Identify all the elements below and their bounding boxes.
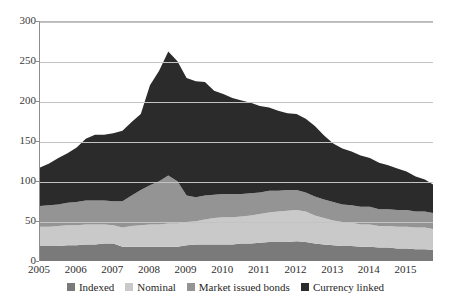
gridline-150 <box>40 142 433 143</box>
legend-label: Market issued bonds <box>199 281 290 293</box>
y-tick-mark-0 <box>35 261 39 262</box>
x-tick-label-2010: 2010 <box>211 263 233 275</box>
x-tick-label-2007: 2007 <box>101 263 123 275</box>
gridline-300 <box>40 22 433 23</box>
plot-area <box>39 21 433 261</box>
legend-item-nominal[interactable]: Nominal <box>125 281 176 293</box>
x-tick-label-2014: 2014 <box>358 263 380 275</box>
x-tick-label-2008: 2008 <box>138 263 160 275</box>
x-tick-label-2005: 2005 <box>28 263 50 275</box>
y-tick-label-250: 250 <box>2 55 36 66</box>
x-tick-label-2013: 2013 <box>321 263 343 275</box>
gridline-250 <box>40 62 433 63</box>
x-tick-label-2006: 2006 <box>65 263 87 275</box>
y-tick-label-200: 200 <box>2 95 36 106</box>
legend-swatch-icon <box>301 283 309 291</box>
x-tick-label-2012: 2012 <box>285 263 307 275</box>
legend-item-market-issued-bonds[interactable]: Market issued bonds <box>187 281 290 293</box>
legend-label: Indexed <box>79 281 114 293</box>
y-tick-label-50: 50 <box>2 215 36 226</box>
legend-label: Currency linked <box>313 281 384 293</box>
gridline-50 <box>40 222 433 223</box>
x-axis: 2005200620072008200920102011201220132014… <box>39 263 433 279</box>
y-tick-label-300: 300 <box>2 15 36 26</box>
y-tick-label-150: 150 <box>2 135 36 146</box>
legend-swatch-icon <box>67 283 75 291</box>
stacked-area-chart: 050100150200250300 200520062007200820092… <box>0 0 451 302</box>
legend-swatch-icon <box>125 283 133 291</box>
chart-legend: IndexedNominalMarket issued bondsCurrenc… <box>0 281 451 293</box>
x-tick-label-2011: 2011 <box>248 263 270 275</box>
legend-item-currency-linked[interactable]: Currency linked <box>301 281 384 293</box>
legend-label: Nominal <box>137 281 176 293</box>
gridline-200 <box>40 102 433 103</box>
y-axis: 050100150200250300 <box>0 0 36 302</box>
gridline-100 <box>40 182 433 183</box>
x-tick-label-2009: 2009 <box>175 263 197 275</box>
legend-swatch-icon <box>187 283 195 291</box>
y-tick-label-100: 100 <box>2 175 36 186</box>
x-tick-label-2015: 2015 <box>395 263 417 275</box>
legend-item-indexed[interactable]: Indexed <box>67 281 114 293</box>
area-band-currency-linked <box>40 52 433 214</box>
